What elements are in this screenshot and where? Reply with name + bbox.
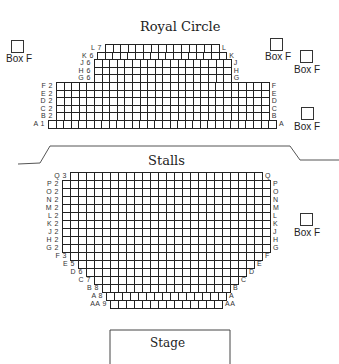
row-label-left: Q 3 — [54, 172, 67, 179]
seat-row — [62, 244, 270, 251]
seat-row — [62, 188, 270, 195]
seat-row — [62, 212, 270, 219]
seat-row — [94, 276, 238, 283]
seat-row — [106, 292, 226, 299]
row-label-right: AA — [225, 300, 235, 307]
row-label-right: J — [234, 59, 238, 66]
seat-row — [62, 180, 270, 187]
seat-row — [56, 82, 269, 89]
row-label-left: B 8 — [87, 284, 99, 291]
box-label: Box F — [6, 53, 32, 64]
row-label-right: J — [273, 228, 277, 235]
box-label: Box F — [294, 64, 320, 75]
row-label-left: L 7 — [91, 44, 102, 51]
row-label-left: M 2 — [46, 204, 59, 211]
row-label-right: A — [229, 292, 234, 299]
seat-row — [48, 120, 276, 127]
row-label-left: D 6 — [71, 268, 83, 275]
row-label-right: B — [233, 284, 238, 291]
row-label-left: B 2 — [41, 112, 53, 119]
row-label-left: A 8 — [91, 292, 103, 299]
row-label-left: F 2 — [41, 82, 53, 89]
seat-row — [62, 228, 270, 235]
row-label-right: E — [257, 260, 262, 267]
row-label-right: D — [249, 268, 255, 275]
box-label: Box F — [294, 121, 320, 132]
row-label-right: K — [273, 220, 278, 227]
row-label-left: O 2 — [46, 188, 59, 195]
row-label-left: H 2 — [47, 236, 59, 243]
seat-row — [86, 268, 246, 275]
row-label-right: H — [234, 67, 240, 74]
row-label-left: J 6 — [80, 59, 91, 66]
seat-row — [94, 74, 231, 81]
seat-row — [78, 260, 254, 267]
seat-row — [56, 112, 269, 119]
row-label-right: P — [273, 180, 278, 187]
row-label-left: G 2 — [46, 244, 59, 251]
row-label-right: N — [273, 196, 279, 203]
row-label-left: K 2 — [47, 220, 59, 227]
row-label-right: G — [234, 74, 240, 81]
seat-row — [56, 105, 269, 112]
row-label-right: E — [272, 90, 277, 97]
row-label-right: B — [272, 112, 277, 119]
row-label-right: L — [222, 44, 226, 51]
row-label-right: F — [265, 252, 270, 259]
seat-row — [110, 300, 222, 307]
row-label-left: L 2 — [48, 212, 59, 219]
box-seat[interactable] — [11, 40, 24, 53]
row-label-left: K 6 — [82, 52, 94, 59]
row-label-left: H 6 — [79, 67, 91, 74]
seat-row — [94, 67, 231, 74]
row-label-right: H — [273, 236, 279, 243]
seat-row — [70, 252, 262, 259]
seat-row — [62, 220, 270, 227]
box-label: Box F — [294, 227, 320, 238]
seat-row — [94, 59, 231, 66]
box-seat[interactable] — [300, 213, 313, 226]
row-label-right: L — [273, 212, 277, 219]
seat[interactable] — [214, 300, 223, 309]
seat-row — [56, 90, 269, 97]
row-label-left: G 6 — [78, 74, 91, 81]
row-label-left: C 7 — [79, 276, 91, 283]
row-label-left: AA 9 — [90, 300, 107, 307]
seat-row — [70, 172, 262, 179]
seat-row — [56, 97, 269, 104]
row-label-left: N 2 — [47, 196, 59, 203]
row-label-right: K — [229, 52, 234, 59]
row-label-right: C — [241, 276, 247, 283]
seat-row — [97, 52, 226, 59]
row-label-right: F — [272, 82, 277, 89]
box-seat[interactable] — [301, 107, 314, 120]
row-label-right: G — [273, 244, 279, 251]
row-label-right: M — [273, 204, 279, 211]
seat[interactable] — [268, 120, 277, 129]
seat-row — [102, 284, 230, 291]
row-label-left: P 2 — [47, 180, 59, 187]
row-label-right: O — [273, 188, 279, 195]
box-seat[interactable] — [300, 50, 313, 63]
seat-row — [62, 196, 270, 203]
seat-row — [105, 44, 219, 51]
row-label-left: E 2 — [41, 90, 53, 97]
row-label-left: E 5 — [63, 260, 75, 267]
row-label-left: D 2 — [41, 97, 53, 104]
box-seat[interactable] — [270, 38, 283, 51]
row-label-left: F 3 — [55, 252, 67, 259]
stage-label: Stage — [150, 336, 185, 350]
row-label-right: A — [279, 120, 284, 127]
row-label-left: A 1 — [33, 120, 45, 127]
row-label-left: J 2 — [48, 228, 59, 235]
row-label-right: C — [272, 105, 278, 112]
seat-row — [62, 236, 270, 243]
seat-row — [62, 204, 270, 211]
row-label-right: Q — [265, 172, 271, 179]
row-label-right: D — [272, 97, 278, 104]
box-label: Box F — [265, 51, 291, 62]
row-label-left: C 2 — [41, 105, 53, 112]
